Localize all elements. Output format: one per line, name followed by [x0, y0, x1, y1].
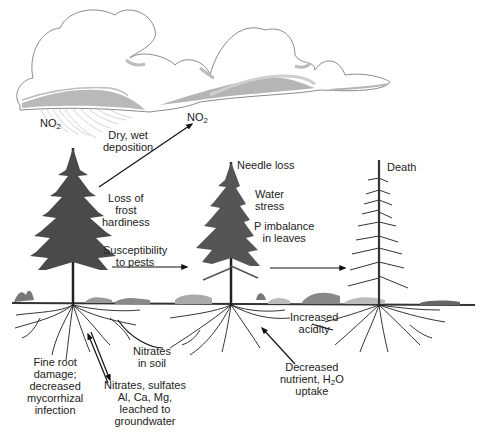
- p-imbalance-label: P imbalancein leaves: [254, 220, 314, 244]
- needle-loss-label: Needle loss: [237, 159, 294, 171]
- frost-hardiness-label: Loss offrosthardiness: [102, 192, 150, 228]
- decreased-uptake-label: Decreased nutrient, H2O uptake: [280, 361, 344, 397]
- fine-root-damage-label: Fine rootdamage;decreasedmycorrhizalinfe…: [27, 356, 83, 416]
- no2-emission-label: NO2: [187, 111, 208, 123]
- arrow-leached-down: [91, 332, 110, 380]
- cloud: [17, 10, 390, 112]
- dead-tree: [348, 160, 408, 305]
- water-stress-label: Waterstress: [255, 188, 284, 212]
- dry-wet-deposition-label: Dry, wetdeposition: [103, 129, 153, 153]
- no2-rain-label: NO2: [40, 117, 61, 129]
- pest-susceptibility-label: Susceptibilityto pests: [103, 244, 167, 268]
- leached-groundwater-label: Nitrates, sulfatesAl, Ca, Mg,leached tog…: [104, 379, 186, 427]
- arrow-leached: [88, 334, 108, 383]
- ground: [12, 291, 475, 305]
- increased-acidity-label: Increasedacidity: [290, 311, 338, 335]
- acid-deposition-diagram: NO2 Dry, wetdeposition NO2 Loss offrosth…: [0, 0, 486, 437]
- stressed-tree: [196, 162, 260, 305]
- roots: [15, 305, 445, 360]
- nitrates-in-soil-label: Nitratesin soil: [133, 345, 171, 369]
- line-nitrates: [118, 320, 163, 348]
- death-label: Death: [387, 161, 416, 173]
